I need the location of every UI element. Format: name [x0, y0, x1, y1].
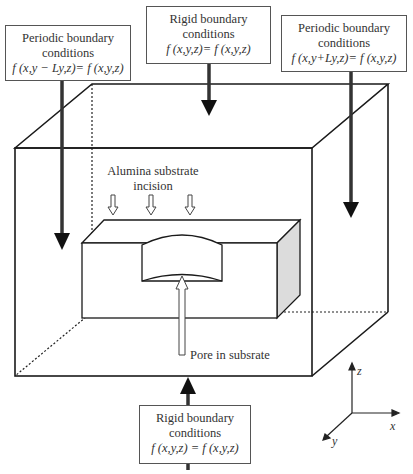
down-arrow-icon [343, 202, 359, 218]
pore-label: Pore in subsrate [190, 348, 270, 363]
box-subtitle: conditions [147, 27, 270, 42]
alumina-substrate-block [82, 220, 300, 318]
z-axis-label: z [357, 364, 362, 379]
box-equation: f (x,y,z)= f (x,y,z) [147, 42, 270, 57]
incision-label-line2: incision [98, 179, 208, 194]
box-equation: f (x,y,z) = f (x,y,z) [140, 441, 250, 456]
hollow-down-arrow-icon [146, 195, 156, 215]
box-title: Periodic boundary [6, 31, 130, 46]
y-axis-label: y [332, 434, 337, 449]
box-subtitle: conditions [282, 36, 406, 51]
incision-label-line1: Alumina substrate [98, 164, 208, 179]
box-title: Rigid boundary [147, 12, 270, 27]
box-equation: f (x,y+Ly,z)= f (x,y,z) [282, 51, 406, 66]
top-right-periodic-boundary-box: Periodic boundary conditions f (x,y+Ly,z… [281, 15, 407, 72]
incision-label: Alumina substrate incision [98, 164, 208, 194]
box-subtitle: conditions [6, 46, 130, 61]
incision-arrows [108, 195, 195, 215]
top-left-periodic-boundary-box: Periodic boundary conditions f (x,y − Ly… [5, 25, 131, 81]
hollow-down-arrow-icon [185, 195, 195, 215]
box-subtitle: conditions [140, 426, 250, 441]
z-axis-arrow-icon [349, 363, 355, 370]
top-center-rigid-boundary-box: Rigid boundary conditions f (x,y,z)= f (… [146, 6, 271, 64]
up-arrow-icon [180, 377, 196, 394]
down-arrow-icon [54, 233, 70, 250]
box-title: Rigid boundary [140, 411, 250, 426]
x-axis-label: x [390, 419, 395, 434]
down-arrow-icon [201, 100, 217, 116]
hollow-down-arrow-icon [108, 195, 118, 215]
x-axis-arrow-icon [392, 410, 399, 416]
box-title: Periodic boundary [282, 21, 406, 36]
bottom-rigid-boundary-box: Rigid boundary conditions f (x,y,z) = f … [139, 405, 251, 464]
box-equation: f (x,y − Ly,z)= f (x,y,z) [6, 61, 130, 76]
